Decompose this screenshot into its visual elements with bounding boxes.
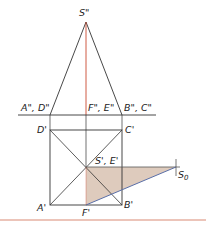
label-ground-right: B", C" — [124, 102, 152, 113]
projection-diagram: S" A", D" F", E" B", C" D' C' S', E' A' … — [0, 0, 206, 231]
label-apex-front: S" — [79, 7, 89, 18]
label-ground-left: A", D" — [20, 102, 50, 113]
label-center: S', E' — [95, 155, 118, 166]
label-bottom-right: B' — [124, 199, 133, 210]
label-ground-mid: F", E" — [88, 102, 114, 113]
label-shadow-point: S0 — [178, 169, 189, 182]
pyramid-left-edge — [50, 22, 86, 115]
label-bottom-left: A' — [36, 202, 46, 213]
label-bottom-mid: F' — [82, 207, 90, 218]
label-top-left: D' — [37, 124, 47, 135]
label-top-right: C' — [125, 124, 134, 135]
